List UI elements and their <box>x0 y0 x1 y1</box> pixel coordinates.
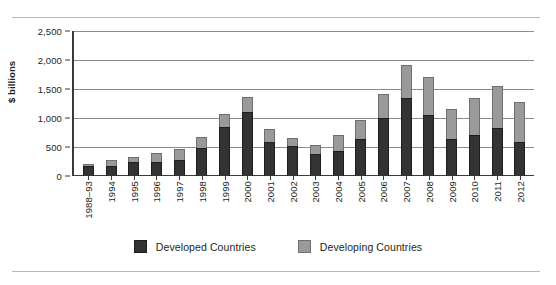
x-axis-tick <box>168 176 191 180</box>
bar-slot[interactable] <box>122 31 145 176</box>
legend-label: Developing Countries <box>320 241 422 253</box>
bar-slot[interactable] <box>236 31 259 176</box>
y-axis-tick-label: 2,000 <box>38 55 62 66</box>
bar-slot[interactable] <box>100 31 123 176</box>
bar-segment-developed[interactable] <box>174 160 185 176</box>
bar-stack[interactable] <box>264 129 275 176</box>
bar-segment-developing[interactable] <box>264 129 275 142</box>
bar-segment-developed[interactable] <box>492 128 503 176</box>
bar-slot[interactable] <box>508 31 531 176</box>
bar-slot[interactable] <box>418 31 441 176</box>
legend-item[interactable]: Developing Countries <box>298 240 422 253</box>
bar-stack[interactable] <box>355 120 366 176</box>
bar-segment-developing[interactable] <box>469 98 480 135</box>
x-axis-tick <box>349 176 372 180</box>
bar-segment-developing[interactable] <box>514 102 525 142</box>
bar-segment-developed[interactable] <box>287 146 298 176</box>
x-axis-tick-label: 1995 <box>128 181 139 203</box>
bar-slot[interactable] <box>191 31 214 176</box>
bar-segment-developing[interactable] <box>310 145 321 154</box>
y-axis-tick <box>65 118 70 119</box>
bar-stack[interactable] <box>128 157 139 176</box>
bar-segment-developed[interactable] <box>151 162 162 176</box>
bar-stack[interactable] <box>514 102 525 176</box>
bar-slot[interactable] <box>440 31 463 176</box>
bar-stack[interactable] <box>287 138 298 176</box>
bar-slot[interactable] <box>486 31 509 176</box>
y-axis-tick-label: 1,000 <box>38 113 62 124</box>
bar-segment-developing[interactable] <box>219 114 230 127</box>
bar-segment-developed[interactable] <box>355 139 366 176</box>
bar-stack[interactable] <box>219 114 230 176</box>
bar-segment-developing[interactable] <box>355 120 366 139</box>
bar-segment-developed[interactable] <box>378 118 389 176</box>
bar-segment-developing[interactable] <box>287 138 298 146</box>
bar-segment-developed[interactable] <box>196 148 207 176</box>
x-axis-tick <box>304 176 327 180</box>
x-label-slot: 2007 <box>395 181 418 229</box>
bar-segment-developed[interactable] <box>401 98 412 176</box>
x-axis-tick-label: 1997 <box>174 181 185 203</box>
x-axis-tick-label: 2011 <box>492 181 503 202</box>
bar-stack[interactable] <box>310 145 321 176</box>
bar-stack[interactable] <box>196 137 207 176</box>
bar-segment-developed[interactable] <box>333 151 344 176</box>
bar-stack[interactable] <box>492 86 503 176</box>
bar-slot[interactable] <box>281 31 304 176</box>
x-axis-tick-label: 1998 <box>196 181 207 203</box>
bar-slot[interactable] <box>349 31 372 176</box>
bar-segment-developed[interactable] <box>219 127 230 176</box>
bar-slot[interactable] <box>395 31 418 176</box>
bar-segment-developing[interactable] <box>333 135 344 151</box>
bar-segment-developed[interactable] <box>446 139 457 176</box>
bar-stack[interactable] <box>83 164 94 176</box>
bar-segment-developed[interactable] <box>514 142 525 176</box>
x-axis-tick <box>100 176 123 180</box>
bar-segment-developed[interactable] <box>264 142 275 176</box>
bar-segment-developed[interactable] <box>310 154 321 176</box>
bar-segment-developed[interactable] <box>106 166 117 176</box>
x-axis-tick-label: 2001 <box>264 181 275 203</box>
bar-segment-developed[interactable] <box>423 115 434 176</box>
bar-segment-developing[interactable] <box>492 86 503 128</box>
bar-stack[interactable] <box>446 109 457 176</box>
bar-stack[interactable] <box>401 65 412 176</box>
bar-stack[interactable] <box>378 94 389 176</box>
legend-item[interactable]: Developed Countries <box>134 240 256 253</box>
bar-segment-developed[interactable] <box>242 112 253 176</box>
bar-stack[interactable] <box>106 160 117 176</box>
x-label-slot: 2006 <box>372 181 395 229</box>
bar-stack[interactable] <box>151 153 162 176</box>
bar-segment-developing[interactable] <box>378 94 389 118</box>
bar-segment-developed[interactable] <box>469 135 480 176</box>
bar-stack[interactable] <box>174 149 185 176</box>
bar-slot[interactable] <box>463 31 486 176</box>
bar-segment-developing[interactable] <box>151 153 162 162</box>
x-label-slot: 2004 <box>327 181 350 229</box>
x-label-slot: 1999 <box>213 181 236 229</box>
bar-slot[interactable] <box>168 31 191 176</box>
bar-segment-developed[interactable] <box>128 162 139 176</box>
bar-segment-developing[interactable] <box>242 97 253 112</box>
bar-segment-developing[interactable] <box>423 77 434 115</box>
bar-slot[interactable] <box>77 31 100 176</box>
bar-segment-developing[interactable] <box>174 149 185 160</box>
bar-segment-developing[interactable] <box>196 137 207 149</box>
bar-segment-developing[interactable] <box>401 65 412 98</box>
bar-stack[interactable] <box>242 97 253 176</box>
bar-slot[interactable] <box>145 31 168 176</box>
bar-slot[interactable] <box>372 31 395 176</box>
bar-slot[interactable] <box>304 31 327 176</box>
bar-slot[interactable] <box>213 31 236 176</box>
bar-stack[interactable] <box>423 77 434 176</box>
bar-slot[interactable] <box>259 31 282 176</box>
x-axis-tick <box>191 176 214 180</box>
y-axis-tick <box>65 176 70 177</box>
bar-stack[interactable] <box>333 135 344 176</box>
bar-slot[interactable] <box>327 31 350 176</box>
x-label-slot: 2002 <box>281 181 304 229</box>
bar-segment-developed[interactable] <box>83 166 94 176</box>
chart-legend: Developed CountriesDeveloping Countries <box>0 240 556 253</box>
bar-segment-developing[interactable] <box>446 109 457 139</box>
bar-stack[interactable] <box>469 98 480 176</box>
